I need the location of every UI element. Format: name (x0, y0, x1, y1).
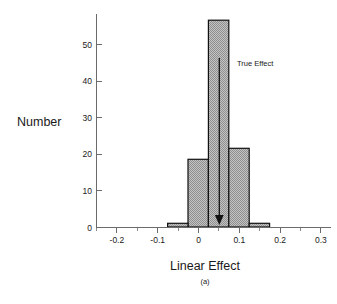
y-tick-label: 10 (83, 186, 93, 196)
histogram-bar[interactable] (188, 159, 208, 227)
bar-series (168, 20, 270, 227)
x-tick-label: 0.3 (315, 235, 327, 245)
y-tick-label: 0 (87, 223, 92, 233)
x-tick-label: -0.1 (150, 235, 165, 245)
panel-label: (a) (200, 277, 210, 286)
x-tick-label: 0.1 (233, 235, 245, 245)
histogram-bar[interactable] (168, 223, 188, 227)
y-axis-ticks (97, 45, 102, 228)
x-tick-label: 0 (196, 235, 201, 245)
x-tick-label: 0.2 (274, 235, 286, 245)
y-tick-label: 30 (83, 113, 93, 123)
histogram-figure: 0 10 20 30 40 50 -0.2 -0.1 0 0.1 0.2 0.3… (0, 0, 337, 304)
y-axis-title: Number (17, 115, 61, 129)
x-axis-title: Linear Effect (170, 259, 240, 273)
y-tick-label: 40 (83, 76, 93, 86)
y-tick-label: 50 (83, 40, 93, 50)
x-tick-label: -0.2 (110, 235, 125, 245)
histogram-bar[interactable] (208, 20, 228, 227)
y-tick-label: 20 (83, 149, 93, 159)
histogram-bar[interactable] (229, 148, 249, 227)
histogram-bar[interactable] (249, 223, 269, 227)
true-effect-label: True Effect (237, 59, 274, 68)
chart-canvas: 0 10 20 30 40 50 -0.2 -0.1 0 0.1 0.2 0.3… (0, 0, 337, 304)
